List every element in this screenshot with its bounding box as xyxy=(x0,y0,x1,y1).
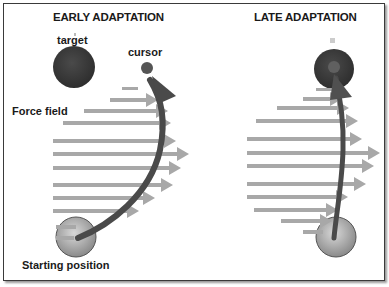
late-force-field-arrows xyxy=(247,88,380,234)
cursor-dot xyxy=(141,62,153,74)
late-adaptation-title: LATE ADAPTATION xyxy=(254,11,357,23)
early-adaptation-title: EARLY ADAPTATION xyxy=(53,11,164,23)
target-label: target xyxy=(57,34,88,46)
force-field-label: Force field xyxy=(12,105,68,117)
cursor-label: cursor xyxy=(128,46,162,58)
late-cursor-dot xyxy=(328,61,340,73)
target-circle xyxy=(53,46,95,88)
late-panel xyxy=(247,38,380,257)
starting-position-label: Starting position xyxy=(22,259,109,271)
early-panel xyxy=(53,33,189,257)
